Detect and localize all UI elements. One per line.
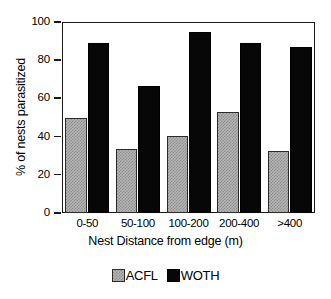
- y-tick-mark: [54, 174, 61, 176]
- legend-item-woth[interactable]: WOTH: [167, 268, 220, 283]
- y-tick-mark: [54, 212, 61, 214]
- y-tick-label: 80: [18, 53, 50, 65]
- bar-woth-050: [88, 43, 110, 213]
- y-tick-label: 0: [18, 206, 50, 218]
- bar-woth-200400: [240, 43, 262, 213]
- bar-acfl-400: [268, 151, 290, 213]
- y-tick-mark: [54, 97, 61, 99]
- bar-acfl-50100: [116, 149, 138, 213]
- x-tick-label: >400: [260, 217, 320, 229]
- y-tick-mark: [54, 136, 61, 138]
- gray-hatched-swatch: [112, 269, 125, 282]
- bar-acfl-050: [65, 118, 87, 214]
- legend-item-acfl[interactable]: ACFL: [112, 268, 158, 283]
- bar-acfl-200400: [217, 112, 239, 213]
- bar-woth-100200: [189, 32, 211, 213]
- legend-label: ACFL: [126, 268, 158, 283]
- y-tick-mark: [54, 21, 61, 23]
- x-axis-title: Nest Distance from edge (m): [0, 234, 331, 248]
- y-axis-title: % of nests parasitized: [14, 17, 28, 217]
- legend-label: WOTH: [181, 268, 220, 283]
- bar-chart-figure: % of nests parasitized 020406080100 0-50…: [0, 0, 331, 299]
- y-tick-label: 40: [18, 130, 50, 142]
- y-tick-label: 20: [18, 168, 50, 180]
- chart-legend: ACFLWOTH: [0, 268, 331, 283]
- black-swatch: [167, 269, 180, 282]
- bar-woth-50100: [138, 86, 160, 213]
- bars-layer: [62, 22, 315, 213]
- y-tick-label: 60: [18, 91, 50, 103]
- bar-woth-400: [290, 47, 312, 213]
- bar-acfl-100200: [167, 136, 189, 213]
- y-tick-label: 100: [18, 15, 50, 27]
- y-tick-mark: [54, 59, 61, 61]
